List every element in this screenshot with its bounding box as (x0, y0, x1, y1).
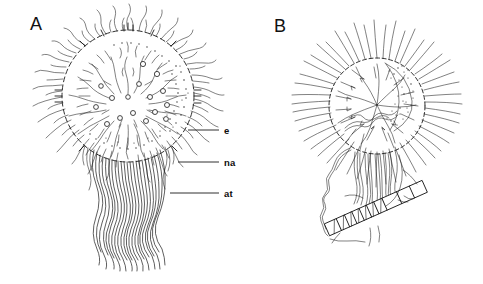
figure-illustration: A (0, 0, 483, 284)
panel-a-letter: A (30, 14, 42, 34)
label-e: e (224, 125, 230, 136)
figure-background (0, 0, 483, 284)
panel-b-letter: B (274, 16, 286, 36)
label-na: na (224, 157, 236, 168)
label-at: at (224, 188, 234, 199)
figure-canvas: A (0, 0, 483, 284)
